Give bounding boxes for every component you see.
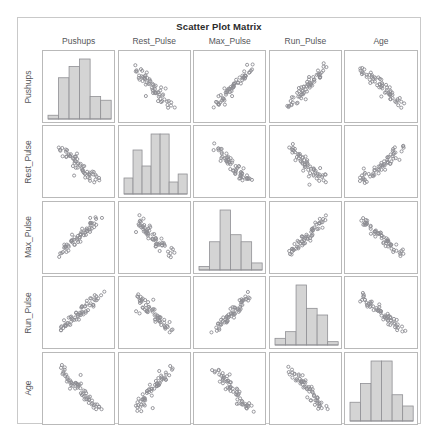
scatter-cell-age-vs-max_pulse bbox=[193, 352, 266, 425]
scatter-cell-max_pulse-vs-rest_pulse bbox=[118, 201, 191, 274]
row-label-run_pulse: Run_Pulse bbox=[21, 276, 35, 349]
scatter-cell-run_pulse-vs-max_pulse bbox=[193, 276, 266, 349]
scatter-cell-pushups-vs-age bbox=[344, 50, 417, 123]
scatter-cell-pushups-vs-max_pulse bbox=[193, 50, 266, 123]
column-header-rest_pulse: Rest_Pulse bbox=[118, 35, 191, 47]
scatter-cell-rest_pulse-vs-run_pulse bbox=[269, 125, 342, 198]
scatter-cell-run_pulse-vs-pushups bbox=[42, 276, 115, 349]
scatter-cell-pushups-vs-run_pulse bbox=[269, 50, 342, 123]
scatter-cell-run_pulse-vs-rest_pulse bbox=[118, 276, 191, 349]
row-label-pushups: Pushups bbox=[21, 50, 35, 123]
column-header-pushups: Pushups bbox=[42, 35, 115, 47]
histogram-cell-run_pulse bbox=[269, 276, 342, 349]
scatter-cell-rest_pulse-vs-max_pulse bbox=[193, 125, 266, 198]
row-label-rest_pulse: Rest_Pulse bbox=[21, 125, 35, 198]
histogram-cell-pushups bbox=[42, 50, 115, 123]
column-header-max_pulse: Max_Pulse bbox=[193, 35, 266, 47]
scatter-cell-age-vs-pushups bbox=[42, 352, 115, 425]
scatter-cell-rest_pulse-vs-pushups bbox=[42, 125, 115, 198]
scatter-cell-max_pulse-vs-age bbox=[344, 201, 417, 274]
scatter-cell-pushups-vs-rest_pulse bbox=[118, 50, 191, 123]
page-title: Scatter Plot Matrix bbox=[17, 21, 421, 32]
row-label-max_pulse: Max_Pulse bbox=[21, 201, 35, 274]
scatter-cell-max_pulse-vs-pushups bbox=[42, 201, 115, 274]
scatter-plot-matrix-figure: Scatter Plot Matrix PushupsRest_PulseMax… bbox=[0, 0, 438, 442]
scatter-cell-run_pulse-vs-age bbox=[344, 276, 417, 349]
histogram-cell-rest_pulse bbox=[118, 125, 191, 198]
histogram-cell-age bbox=[344, 352, 417, 425]
scatter-cell-rest_pulse-vs-age bbox=[344, 125, 417, 198]
histogram-cell-max_pulse bbox=[193, 201, 266, 274]
column-header-age: Age bbox=[344, 35, 417, 47]
scatter-cell-age-vs-run_pulse bbox=[269, 352, 342, 425]
column-header-run_pulse: Run_Pulse bbox=[269, 35, 342, 47]
scatter-cell-max_pulse-vs-run_pulse bbox=[269, 201, 342, 274]
scatter-cell-age-vs-rest_pulse bbox=[118, 352, 191, 425]
row-label-age: Age bbox=[21, 352, 35, 425]
